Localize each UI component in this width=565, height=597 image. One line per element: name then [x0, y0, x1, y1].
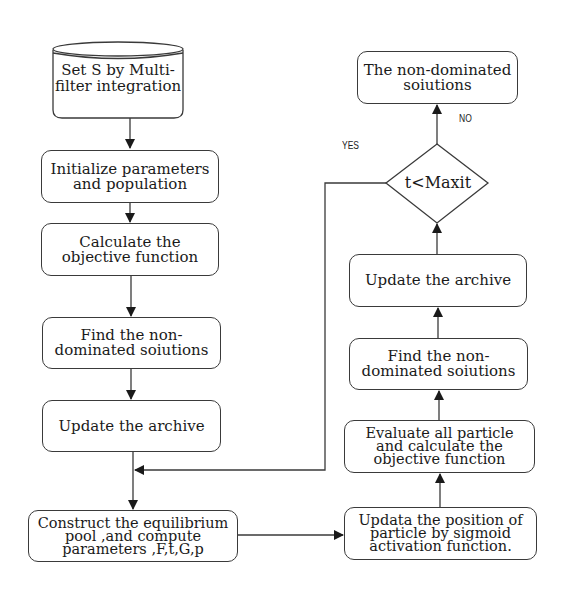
construct-equilibrium-box: Construct the equilibrium pool ,and comp…: [28, 510, 238, 562]
yes-edge-label: YES: [342, 140, 359, 151]
find-non-dominated-text-right: Find the non- dominated soiutions: [362, 349, 516, 379]
find-non-dominated-text-left: Find the non- dominated soiutions: [55, 328, 209, 358]
init-parameters-text: Initialize parameters and population: [51, 162, 210, 192]
update-archive-box-right: Update the archive: [349, 254, 527, 307]
find-non-dominated-box-left: Find the non- dominated soiutions: [42, 317, 221, 369]
update-archive-text-left: Update the archive: [58, 419, 204, 434]
updata-position-text: Updata the position of particle by sigmo…: [358, 514, 522, 553]
find-non-dominated-box-right: Find the non- dominated soiutions: [349, 338, 528, 390]
init-parameters-box: Initialize parameters and population: [41, 150, 219, 203]
calculate-objective-text: Calculate the objective function: [62, 235, 198, 265]
calculate-objective-box: Calculate the objective function: [41, 223, 219, 276]
update-archive-text-right: Update the archive: [365, 273, 511, 288]
no-edge-label: NO: [459, 113, 472, 124]
updata-position-box: Updata the position of particle by sigmo…: [344, 507, 537, 560]
evaluate-particles-text: Evaluate all particle and calculate the …: [365, 427, 513, 466]
update-archive-box-left: Update the archive: [42, 400, 221, 452]
evaluate-particles-box: Evaluate all particle and calculate the …: [344, 420, 535, 473]
construct-equilibrium-text: Construct the equilibrium pool ,and comp…: [38, 517, 229, 556]
decision-condition-text: t<Maxit: [392, 174, 484, 192]
start-set-s-label: Set S by Multi- filter integration: [52, 62, 184, 94]
result-non-dominated-box: The non-dominated soiutions: [357, 51, 518, 104]
result-non-dominated-text: The non-dominated soiutions: [364, 63, 512, 93]
